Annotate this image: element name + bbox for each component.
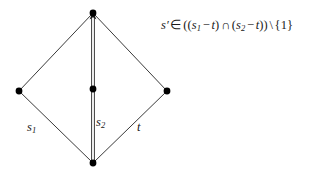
- edge-right-upper: [94, 14, 167, 91]
- formula-member-symbol: ∈: [169, 18, 183, 32]
- formula-intersection-symbol: ∩: [219, 18, 231, 32]
- edge-label-s2-subscript: 2: [101, 120, 105, 130]
- bottom-vertex: [90, 160, 97, 167]
- formula-open-double-paren: ((: [183, 18, 192, 32]
- left-vertex: [16, 88, 23, 95]
- formula-setminus-symbol: \: [268, 18, 275, 32]
- edge-label-s2: s2: [96, 116, 105, 129]
- formula-brace-close: }: [287, 18, 293, 32]
- formula-annotation: s′∈((s1−t)∩(s2−t))\{1}: [161, 19, 293, 32]
- edge-label-s1: s1: [27, 121, 36, 134]
- edge-label-s1-subscript: 1: [32, 125, 36, 135]
- edge-label-t: t: [137, 121, 140, 134]
- formula-close-double-paren: )): [259, 18, 268, 32]
- formula-minus-1: −: [201, 18, 211, 32]
- formula-minus-2: −: [245, 18, 255, 32]
- middle-vertex: [90, 86, 97, 93]
- edge-label-t-base: t: [137, 120, 140, 134]
- right-vertex: [164, 88, 171, 95]
- top-vertex: [90, 10, 97, 17]
- edge-left-upper: [19, 14, 92, 91]
